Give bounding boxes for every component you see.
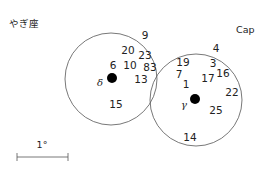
star-number-label: 17 xyxy=(201,73,214,84)
star-number-label: 6 xyxy=(110,60,117,71)
star-number-label: 10 xyxy=(123,60,136,71)
star-delta-dot xyxy=(107,73,117,83)
star-number-label: 83 xyxy=(143,62,156,73)
star-number-label: 1 xyxy=(183,79,190,90)
star-number-label: 9 xyxy=(142,30,149,41)
star-number-label: 13 xyxy=(134,74,147,85)
star-number-label: 20 xyxy=(121,45,134,56)
star-number-label: 23 xyxy=(138,50,151,61)
star-number-label: 19 xyxy=(176,57,189,68)
star-number-label: 15 xyxy=(109,99,122,110)
star-number-label: 16 xyxy=(216,68,229,79)
star-number-label: 7 xyxy=(176,69,183,80)
scale-label: 1° xyxy=(37,140,48,150)
constellation-abbreviation: Cap xyxy=(236,25,255,35)
star-number-label: 25 xyxy=(209,105,222,116)
constellation-name-jp: やぎ座 xyxy=(9,19,39,29)
star-gamma-label: γ xyxy=(181,100,187,110)
star-number-label: 14 xyxy=(183,132,196,143)
star-delta-label: δ xyxy=(97,78,103,88)
star-number-label: 22 xyxy=(225,87,238,98)
star-number-label: 4 xyxy=(213,43,220,54)
star-gamma-dot xyxy=(190,94,200,104)
